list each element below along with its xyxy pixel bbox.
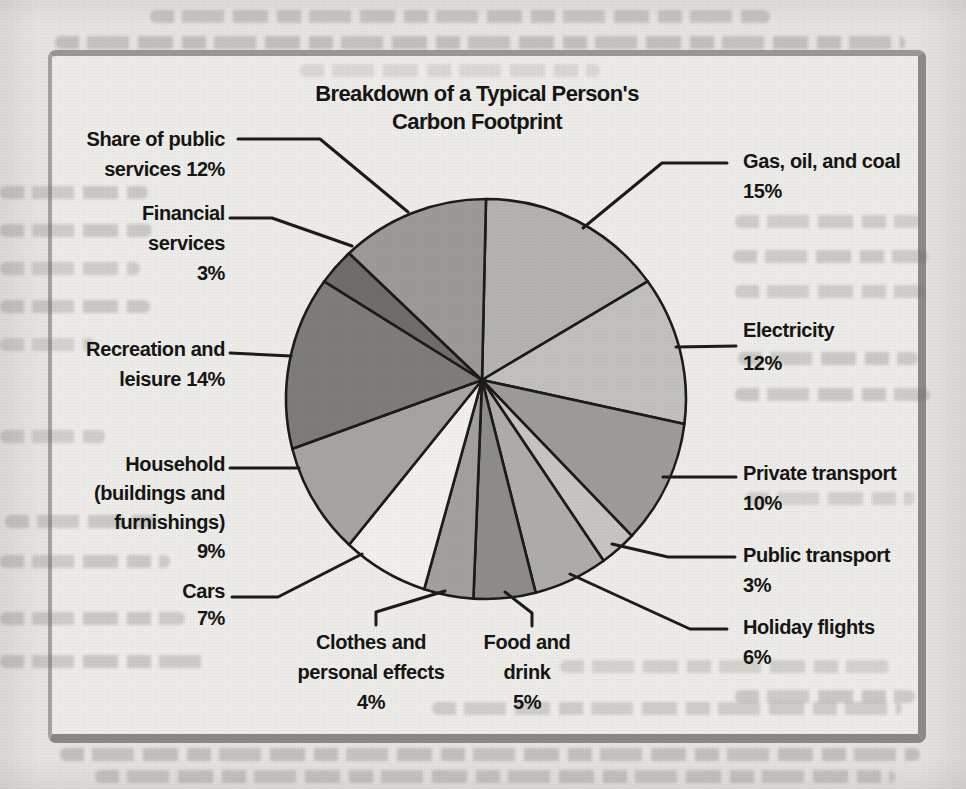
leader-public-transport (612, 544, 735, 557)
pie-segments (286, 199, 686, 599)
callout-food-drink: Food and drink 5% (432, 627, 622, 717)
leader-electricity (676, 346, 736, 347)
callout-gas-oil-coal: Gas, oil, and coal 15% (743, 146, 943, 206)
leader-clothes (376, 591, 445, 625)
leader-cars (232, 554, 362, 597)
callout-share-public-services: Share of public services 12% (25, 124, 225, 184)
leader-holiday-flights (570, 574, 727, 629)
callout-cars: Cars 7% (60, 578, 225, 632)
callout-holiday-flights: Holiday flights 6% (743, 612, 943, 672)
callout-electricity: Electricity 12% (743, 314, 903, 380)
callout-financial-services: Financial services 3% (60, 198, 225, 288)
callout-household: Household (buildings and furnishings) 9% (40, 450, 225, 566)
leader-recreation-leisure (230, 353, 291, 356)
leader-share-public-services (238, 139, 408, 212)
callout-public-transport: Public transport 3% (743, 540, 943, 600)
leader-gas-oil-coal (583, 163, 727, 228)
chart-title-line2: Carbon Footprint (257, 108, 697, 136)
scanned-book-page: Breakdown of a Typical Person's Carbon F… (0, 0, 966, 789)
callout-private-transport: Private transport 10% (743, 458, 943, 518)
callout-recreation-leisure: Recreation and leisure 14% (25, 334, 225, 394)
chart-title-line1: Breakdown of a Typical Person's (257, 80, 697, 108)
leader-financial-services (230, 218, 352, 246)
chart-title: Breakdown of a Typical Person's Carbon F… (257, 80, 697, 136)
